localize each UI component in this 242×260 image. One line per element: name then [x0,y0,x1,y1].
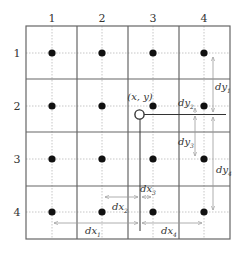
dy2-label: dy2 [178,97,194,110]
query-point-label: (x, y) [127,91,153,102]
column-label: 3 [150,12,157,25]
grid-node [48,208,55,215]
dy1-label: dy1 [215,81,231,94]
grid-node [48,155,55,162]
grid-node [48,49,55,56]
interpolation-grid-diagram: 1 2 3 4 1 2 3 4 [0,0,242,260]
grid-node [149,102,156,109]
dy-arrows [195,57,213,210]
row-labels: 1 2 3 4 [14,47,21,219]
grid-node [200,102,207,109]
row-label: 4 [14,206,21,219]
grid-node [200,155,207,162]
dy3-label: dy3 [178,136,194,149]
grid-node [200,49,207,56]
dx4-label: dx4 [161,225,177,238]
grid-node [98,155,105,162]
column-label: 4 [201,12,208,25]
column-label: 2 [99,12,106,25]
grid-node [98,208,105,215]
row-label: 3 [14,153,21,166]
query-point [135,110,144,119]
grid [26,26,230,239]
row-label: 1 [14,47,21,60]
grid-node [149,49,156,56]
grid-node [98,49,105,56]
dx1-label: dx1 [85,225,101,238]
grid-node [48,102,55,109]
grid-node [149,155,156,162]
dx3-label: dx3 [140,183,156,196]
grid-node [200,208,207,215]
column-label: 1 [49,12,56,25]
grid-node [149,208,156,215]
row-label: 2 [14,100,21,113]
column-labels: 1 2 3 4 [49,12,208,25]
grid-node [98,102,105,109]
